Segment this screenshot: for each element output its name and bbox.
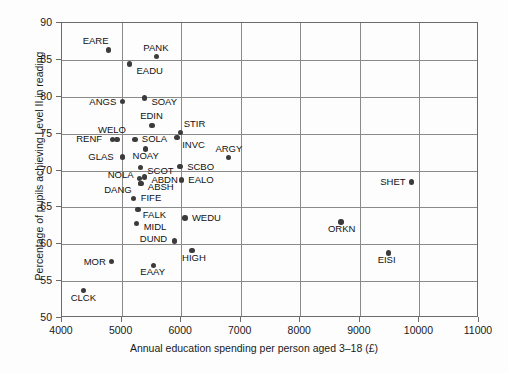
data-point-label: SHET bbox=[380, 177, 405, 187]
x-axis-tick bbox=[478, 317, 479, 322]
x-axis-tick-label: 10000 bbox=[388, 324, 448, 336]
data-point bbox=[132, 137, 137, 142]
y-axis-tick bbox=[56, 206, 61, 207]
y-axis-tick-label: 80 bbox=[0, 90, 52, 102]
gridline-vertical bbox=[300, 23, 301, 316]
y-axis-tick-label: 85 bbox=[0, 53, 52, 65]
x-axis-tick-label: 6000 bbox=[150, 324, 210, 336]
data-point-label: RENF bbox=[76, 134, 102, 144]
gridline-horizontal bbox=[62, 207, 477, 208]
y-axis-tick bbox=[56, 133, 61, 134]
data-point-label: MOR bbox=[84, 257, 106, 267]
gridline-horizontal bbox=[62, 60, 477, 61]
data-point bbox=[179, 177, 184, 182]
data-point-label: INVC bbox=[182, 140, 205, 150]
data-point bbox=[138, 165, 143, 170]
gridline-horizontal bbox=[62, 97, 477, 98]
data-point-label: HIGH bbox=[182, 253, 206, 263]
data-point bbox=[409, 179, 414, 184]
y-axis-tick bbox=[56, 59, 61, 60]
data-point-label: NOAY bbox=[133, 151, 159, 161]
data-point bbox=[138, 181, 143, 186]
gridline-vertical bbox=[419, 23, 420, 316]
y-axis-tick bbox=[56, 317, 61, 318]
x-axis-tick bbox=[359, 317, 360, 322]
data-point-label: GLAS bbox=[88, 152, 113, 162]
data-point bbox=[110, 137, 115, 142]
data-point-label: ANGS bbox=[89, 97, 116, 107]
x-axis-tick bbox=[240, 317, 241, 322]
data-point-label: SOLA bbox=[142, 134, 167, 144]
y-axis-tick-label: 70 bbox=[0, 164, 52, 176]
data-point-label: EDIN bbox=[140, 111, 163, 121]
data-point-label: ARGY bbox=[215, 144, 242, 154]
x-axis-tick bbox=[61, 317, 62, 322]
data-point bbox=[142, 95, 147, 100]
data-point bbox=[182, 215, 187, 220]
data-point bbox=[114, 137, 119, 142]
y-axis-tick bbox=[56, 170, 61, 171]
x-axis-tick bbox=[299, 317, 300, 322]
y-axis-tick-label: 65 bbox=[0, 200, 52, 212]
data-point-label: DUND bbox=[140, 234, 167, 244]
data-point-label: MIDL bbox=[144, 222, 167, 232]
data-point-label: CLCK bbox=[71, 293, 96, 303]
data-point-label: EISI bbox=[378, 255, 396, 265]
x-axis-tick-label: 7000 bbox=[210, 324, 270, 336]
data-point bbox=[127, 61, 132, 66]
x-axis-tick-label: 4000 bbox=[31, 324, 91, 336]
data-point-label: FALK bbox=[143, 210, 166, 220]
data-point-label: WELO bbox=[98, 125, 126, 135]
y-axis-tick bbox=[56, 96, 61, 97]
x-axis-title: Annual education spending per person age… bbox=[0, 342, 508, 354]
data-point bbox=[135, 207, 140, 212]
data-point-label: SOAY bbox=[151, 97, 177, 107]
x-axis-tick bbox=[180, 317, 181, 322]
data-point-label: WEDU bbox=[192, 213, 221, 223]
scatter-chart: Annual education spending per person age… bbox=[0, 0, 508, 373]
y-axis-tick bbox=[56, 280, 61, 281]
data-point bbox=[149, 123, 154, 128]
data-point-label: SCBO bbox=[187, 162, 214, 172]
data-point-label: EARE bbox=[83, 36, 109, 46]
x-axis-tick bbox=[121, 317, 122, 322]
y-axis-tick-label: 55 bbox=[0, 274, 52, 286]
data-point-label: NOLA bbox=[108, 170, 134, 180]
y-axis-tick-label: 90 bbox=[0, 16, 52, 28]
data-point-label: PANK bbox=[143, 43, 168, 53]
data-point bbox=[106, 47, 111, 52]
y-axis-tick-label: 75 bbox=[0, 127, 52, 139]
data-point bbox=[120, 154, 125, 159]
gridline-vertical bbox=[360, 23, 361, 316]
data-point-label: STIR bbox=[184, 119, 206, 129]
gridline-vertical bbox=[241, 23, 242, 316]
y-axis-tick bbox=[56, 243, 61, 244]
gridline-horizontal bbox=[62, 244, 477, 245]
data-point-label: ABSH bbox=[148, 182, 174, 192]
data-point-label: EADU bbox=[137, 66, 163, 76]
data-point-label: EAAY bbox=[140, 267, 165, 277]
data-point-label: FIFE bbox=[141, 193, 162, 203]
x-axis-tick bbox=[418, 317, 419, 322]
gridline-vertical bbox=[181, 23, 182, 316]
y-axis-tick-label: 60 bbox=[0, 237, 52, 249]
x-axis-tick-label: 8000 bbox=[269, 324, 329, 336]
data-point-label: EALO bbox=[188, 175, 213, 185]
gridline-horizontal bbox=[62, 281, 477, 282]
x-axis-tick-label: 9000 bbox=[329, 324, 389, 336]
x-axis-tick-label: 5000 bbox=[91, 324, 151, 336]
x-axis-tick-label: 11000 bbox=[448, 324, 508, 336]
y-axis-tick bbox=[56, 22, 61, 23]
data-point bbox=[177, 164, 182, 169]
y-axis-tick-label: 50 bbox=[0, 311, 52, 323]
data-point bbox=[142, 174, 147, 179]
data-point-label: ORKN bbox=[328, 224, 355, 234]
data-point-label: DANG bbox=[104, 185, 131, 195]
